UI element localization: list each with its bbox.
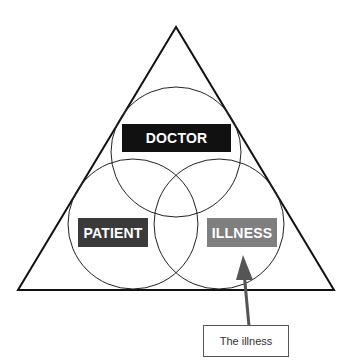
illness-callout: The illness <box>203 325 289 357</box>
arrow-shaft <box>244 272 249 326</box>
diagram-canvas <box>0 0 353 363</box>
illness-label: ILLNESS <box>207 218 277 247</box>
outer-triangle <box>18 27 334 290</box>
doctor-label: DOCTOR <box>122 124 231 152</box>
patient-label: PATIENT <box>78 218 148 247</box>
doctor-circle <box>111 87 241 217</box>
arrow-head-icon <box>236 255 253 280</box>
